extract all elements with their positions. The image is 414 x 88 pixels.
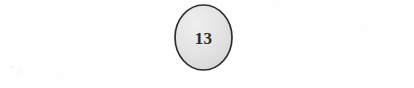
diagram-canvas: 13 (0, 0, 414, 88)
node-diagram-svg: 13 (0, 0, 414, 88)
node-label: 13 (195, 29, 213, 48)
